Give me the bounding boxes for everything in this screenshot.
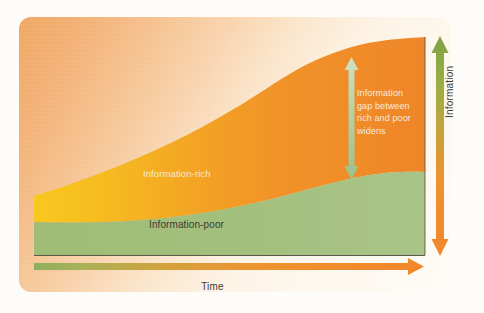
information-gap-figure: Information-rich Information-poor Inform… xyxy=(0,0,484,313)
chart-plot xyxy=(0,0,484,313)
label-x-axis-time: Time xyxy=(0,281,425,292)
time-axis-arrow xyxy=(34,258,424,275)
label-information-rich: Information-rich xyxy=(143,168,211,179)
label-information-gap-note: Information gap between rich and poor wi… xyxy=(357,87,421,137)
label-y-axis-information: Information xyxy=(444,66,455,118)
label-information-poor: Information-poor xyxy=(149,219,224,230)
